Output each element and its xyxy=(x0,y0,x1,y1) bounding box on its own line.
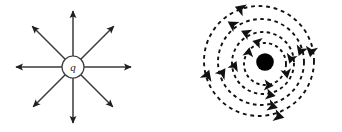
electric-field-panel: q xyxy=(0,0,171,132)
arrowhead-ring3-a xyxy=(225,17,240,32)
magnetic-field-panel xyxy=(171,0,342,132)
magnetic-field-svg xyxy=(171,0,342,132)
electric-field-svg: q xyxy=(0,0,171,132)
current-source-dot xyxy=(256,53,274,71)
arrowhead-ring4-c xyxy=(272,109,285,124)
arrowhead-ring2-b xyxy=(228,59,242,72)
field-line-225deg xyxy=(33,75,65,107)
charge-label: q xyxy=(70,61,76,73)
arrowhead-ring2-a xyxy=(239,26,253,40)
field-line-135deg xyxy=(32,26,65,59)
physics-field-diagram: q xyxy=(0,0,342,132)
arrowhead-ring2-c xyxy=(265,89,277,102)
field-line-45deg xyxy=(81,26,114,59)
arrowhead-ring4-d xyxy=(304,46,318,59)
field-line-315deg xyxy=(81,75,113,107)
arrowhead-ring3-b xyxy=(215,65,231,80)
